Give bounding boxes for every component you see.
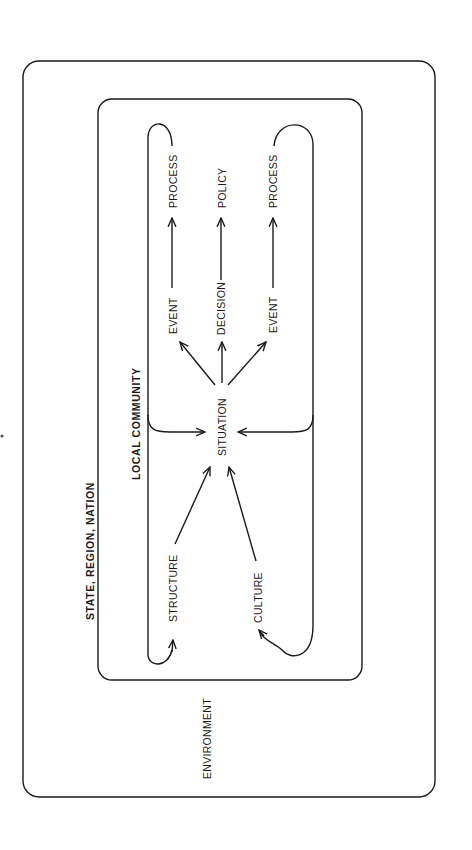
left-loop-arrowhead-to-structure [172,640,173,652]
node-culture: CULTURE [252,572,264,623]
node-event-right: EVENT [267,296,279,333]
arrow-structure-to-situation [175,467,210,544]
outer-container-state-region-nation [23,61,435,797]
label-environment: ENVIRONMENT [201,698,213,779]
node-structure: STRUCTURE [167,555,179,622]
label-local-community: LOCAL COMMUNITY [130,367,142,480]
left-loop-branch-to-situation [148,415,205,432]
community-situation-diagram: STATE, REGION, NATION LOCAL COMMUNITY EN… [0,0,472,850]
scan-speck [0,434,3,437]
right-loop-branch-to-situation [238,415,313,432]
node-policy: POLICY [216,168,228,208]
node-process-left: PROCESS [167,155,179,208]
node-event-left: EVENT [167,297,179,334]
label-state-region-nation: STATE, REGION, NATION [84,482,96,620]
arrow-culture-to-situation [229,467,256,561]
node-process-right: PROCESS [267,155,279,208]
arrow-situation-to-event-right [228,342,266,385]
node-situation: SITUATION [216,398,228,456]
arrow-situation-to-event-left [180,342,215,385]
node-decision: DECISION [215,282,227,335]
